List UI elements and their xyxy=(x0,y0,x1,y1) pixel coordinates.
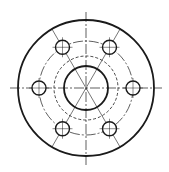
flange-drawing xyxy=(0,0,169,172)
